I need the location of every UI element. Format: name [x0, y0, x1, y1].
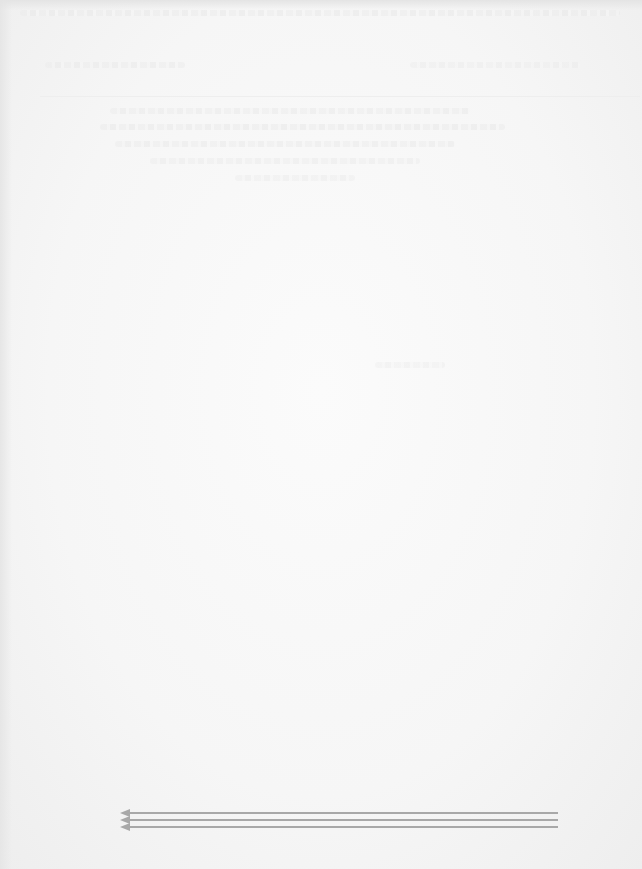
paragraph-line-2 — [100, 124, 505, 130]
title-text-right — [410, 62, 580, 68]
mid-text-fragment — [375, 362, 445, 368]
paragraph-line-4 — [150, 158, 420, 164]
title-text-left — [45, 62, 185, 68]
scanned-page — [0, 0, 642, 869]
scan-edge-shadow — [0, 0, 12, 869]
arrow-shaft — [128, 826, 558, 828]
scan-edge-shadow-top — [0, 0, 642, 10]
arrow-shaft — [128, 812, 558, 814]
left-arrow-3 — [120, 824, 558, 830]
header-text-line — [20, 10, 620, 16]
paragraph-line-5 — [235, 175, 355, 181]
header-rule — [40, 96, 640, 97]
paragraph-line-1 — [110, 108, 470, 114]
left-arrow-1 — [120, 810, 558, 816]
arrow-group — [120, 808, 560, 834]
paragraph-line-3 — [115, 141, 455, 147]
left-arrow-2 — [120, 817, 558, 823]
arrow-shaft — [128, 819, 558, 821]
